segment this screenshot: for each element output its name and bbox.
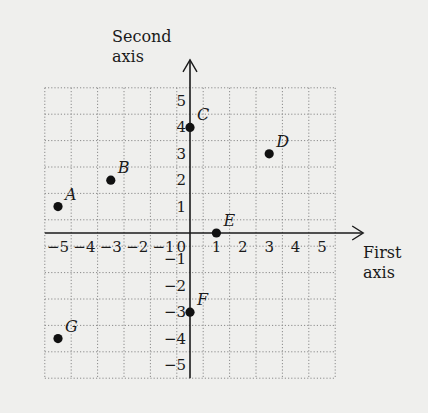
point-e-marker xyxy=(212,228,221,237)
x-tick-label: −5 xyxy=(47,238,69,256)
x-tick-label: 5 xyxy=(317,238,327,256)
coordinate-plane: −5−4−3−2−11234554321−1−2−3−4−50 Second a… xyxy=(0,0,428,413)
x-tick-label: 3 xyxy=(264,238,274,256)
y-tick-label: −3 xyxy=(164,303,186,321)
point-a-label: A xyxy=(63,185,77,204)
origin-label: 0 xyxy=(176,238,186,256)
x-tick-label: 4 xyxy=(291,238,301,256)
y-tick-label: −5 xyxy=(164,356,186,374)
y-tick-label: 4 xyxy=(176,118,186,136)
y-tick-label: 1 xyxy=(176,198,186,216)
y-tick-label: −2 xyxy=(164,277,186,295)
x-tick-label: −2 xyxy=(126,238,148,256)
x-axis-title-line1: First xyxy=(363,243,402,262)
y-axis-title-line2: axis xyxy=(112,47,144,66)
point-b-label: B xyxy=(117,158,130,177)
point-c-label: C xyxy=(197,105,209,124)
y-tick-label: 5 xyxy=(176,92,186,110)
y-tick-label: −4 xyxy=(164,330,186,348)
point-d-marker xyxy=(265,149,274,158)
y-axis-title-line1: Second xyxy=(112,27,172,46)
y-tick-label: 3 xyxy=(176,145,186,163)
x-tick-label: 2 xyxy=(238,238,248,256)
point-g-label: G xyxy=(65,317,78,336)
point-d-label: D xyxy=(275,132,289,151)
x-tick-label: 1 xyxy=(212,238,222,256)
point-c-marker xyxy=(185,123,194,132)
point-f-label: F xyxy=(196,290,209,309)
point-b-marker xyxy=(106,176,115,185)
x-tick-label: −4 xyxy=(73,238,95,256)
point-g-marker xyxy=(53,334,62,343)
point-e-label: E xyxy=(222,211,235,230)
x-axis-title-line2: axis xyxy=(363,263,395,282)
point-a-marker xyxy=(53,202,62,211)
point-f-marker xyxy=(185,308,194,317)
y-tick-label: 2 xyxy=(176,171,186,189)
x-tick-label: −3 xyxy=(100,238,122,256)
